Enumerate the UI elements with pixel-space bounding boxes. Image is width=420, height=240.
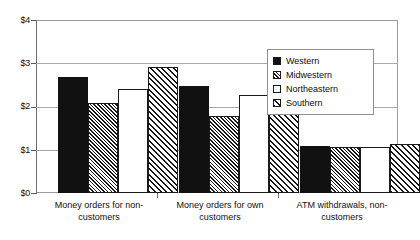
x-axis-separator-2 — [278, 193, 279, 198]
legend-swatch-midwestern-icon — [273, 71, 281, 79]
legend-label-northeastern: Northeastern — [286, 85, 338, 94]
bar-midwestern-money-orders-non-customers — [88, 103, 118, 193]
legend-swatch-northeastern-icon — [273, 85, 281, 93]
legend-item-southern: Southern — [273, 96, 368, 110]
legend-item-midwestern: Midwestern — [273, 68, 368, 82]
bar-northeastern-money-orders-non-customers — [118, 89, 148, 193]
x-axis-label-money-orders-own-customers: Money orders for own customers — [161, 199, 279, 223]
y-tick-label-3: $3 — [2, 59, 30, 68]
y-tick-label-1: $1 — [2, 146, 30, 155]
bar-western-money-orders-non-customers — [58, 77, 88, 193]
y-tick-label-4: $4 — [2, 16, 30, 25]
x-axis-label-line-2: customers — [282, 211, 402, 223]
x-axis-label-line-2: customers — [40, 211, 158, 223]
legend-label-southern: Southern — [286, 99, 323, 108]
bar-southern-money-orders-non-customers — [148, 67, 178, 193]
x-axis-separator-1 — [157, 193, 158, 198]
x-axis-label-line-1: Money orders for non- — [40, 199, 158, 211]
legend-item-western: Western — [273, 54, 368, 68]
legend-label-western: Western — [286, 57, 319, 66]
legend: Western Midwestern Northeastern Southern — [267, 49, 374, 115]
bar-midwestern-money-orders-own-customers — [209, 116, 239, 193]
legend-item-northeastern: Northeastern — [273, 82, 368, 96]
x-axis-label-line-1: ATM withdrawals, non- — [282, 199, 402, 211]
bar-western-atm-withdrawals — [300, 146, 330, 193]
bar-northeastern-money-orders-own-customers — [239, 95, 269, 193]
legend-swatch-western-icon — [273, 57, 281, 65]
y-tick-label-0: $0 — [2, 189, 30, 198]
x-axis-label-line-1: Money orders for own — [161, 199, 279, 211]
legend-swatch-southern-icon — [273, 99, 281, 107]
x-axis-label-atm-withdrawals: ATM withdrawals, non- customers — [282, 199, 402, 223]
y-tick-label-2: $2 — [2, 102, 30, 111]
bar-southern-atm-withdrawals — [390, 144, 420, 193]
legend-label-midwestern: Midwestern — [286, 71, 332, 80]
x-axis-label-money-orders-non-customers: Money orders for non- customers — [40, 199, 158, 223]
bar-midwestern-atm-withdrawals — [330, 147, 360, 193]
bar-western-money-orders-own-customers — [179, 86, 209, 193]
x-axis-label-line-2: customers — [161, 211, 279, 223]
bar-northeastern-atm-withdrawals — [360, 147, 390, 193]
